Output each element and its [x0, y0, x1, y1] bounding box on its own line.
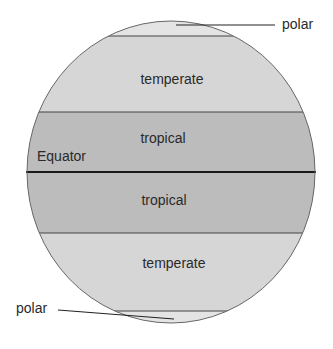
climate-zones-diagram: polar temperate tropical Equator tropica…	[0, 0, 333, 349]
temperate-north-label: temperate	[140, 71, 203, 87]
polar-north-label: polar	[282, 16, 313, 32]
temperate-south-band	[0, 233, 333, 311]
polar-south-label: polar	[16, 300, 47, 316]
equator-label: Equator	[37, 148, 86, 164]
tropical-south-label: tropical	[141, 192, 186, 208]
temperate-south-label: temperate	[142, 255, 205, 271]
polar-south-band	[0, 311, 333, 349]
tropical-north-label: tropical	[140, 130, 185, 146]
